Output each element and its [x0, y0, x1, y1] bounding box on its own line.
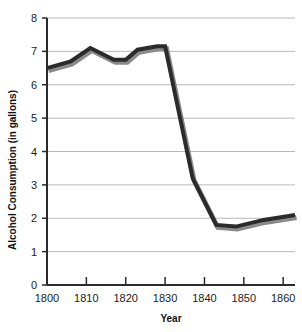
x-tick-label-1800: 1800 — [35, 292, 59, 304]
y-tick-label-0: 0 — [31, 279, 37, 291]
x-tick-label-1830: 1830 — [153, 292, 177, 304]
y-tick-label-8: 8 — [31, 12, 37, 24]
y-tick-label-4: 4 — [31, 146, 37, 158]
x-axis-title: Year — [160, 313, 181, 324]
chart-plot-area: 012345678 1800181018201830184018501860 A… — [0, 0, 302, 332]
y-tick-label-5: 5 — [31, 112, 37, 124]
x-tick-label-1850: 1850 — [232, 292, 256, 304]
y-tick-label-3: 3 — [31, 179, 37, 191]
x-tick-label-1810: 1810 — [74, 292, 98, 304]
y-axis-title: Alcohol Consumption (in gallons) — [7, 90, 18, 250]
y-axis-tick-labels: 012345678 — [31, 12, 37, 291]
y-tick-label-1: 1 — [31, 246, 37, 258]
y-tick-label-2: 2 — [31, 212, 37, 224]
y-tick-label-7: 7 — [31, 45, 37, 57]
y-tick-label-6: 6 — [31, 79, 37, 91]
alcohol-consumption-line-chart: 012345678 1800181018201830184018501860 A… — [0, 0, 302, 332]
x-tick-label-1820: 1820 — [113, 292, 137, 304]
x-tick-label-1860: 1860 — [271, 292, 295, 304]
x-tick-label-1840: 1840 — [192, 292, 216, 304]
